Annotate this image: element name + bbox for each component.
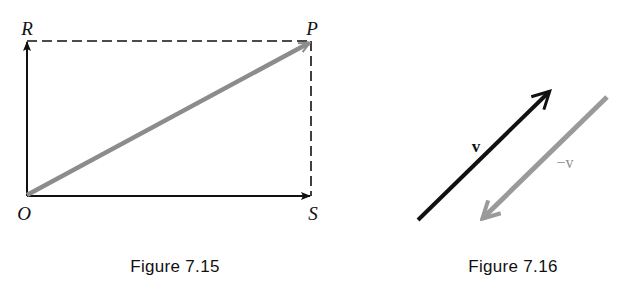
point-label-o: O (17, 204, 31, 223)
point-label-p: P (306, 19, 318, 38)
point-label-s: S (308, 204, 318, 223)
vector-op-arrow (27, 43, 309, 195)
vector-label-neg-v: −v (556, 155, 573, 171)
vector-neg-v-arrow (483, 97, 607, 218)
point-label-r: R (21, 19, 33, 38)
vector-v-arrow (418, 92, 549, 220)
figure-7-15 (27, 41, 311, 196)
diagram-canvas (0, 0, 619, 286)
figure-7-16 (418, 92, 607, 220)
vector-label-v: v (472, 138, 481, 155)
figure-caption-7-15: Figure 7.15 (130, 258, 219, 275)
figure-caption-7-16: Figure 7.16 (468, 258, 557, 275)
